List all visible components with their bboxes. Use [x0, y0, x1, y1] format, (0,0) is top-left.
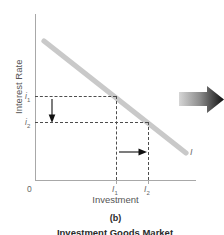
investment-demand-curve-label: I	[190, 148, 193, 157]
y-tick-label-i2: i2	[25, 118, 30, 129]
panel-caption: Investment Goods Market	[15, 228, 215, 235]
panel-letter: (b)	[35, 214, 196, 223]
y-tick-label-i1-sub: 1	[27, 97, 30, 103]
dashed-line-i1	[35, 96, 116, 97]
x-axis-title: Investment	[35, 195, 196, 205]
y-tick-label-i2-sub: 2	[27, 123, 30, 129]
tick-I2	[148, 180, 149, 184]
investment-demand-curve	[44, 41, 186, 153]
investment-rise-arrow	[119, 149, 147, 156]
y-axis-title: Interest Rate	[14, 52, 24, 122]
origin-label: 0	[27, 185, 32, 194]
interest-rate-fall-arrow	[49, 99, 56, 123]
investment-goods-market-figure: i1 i2 I1 I2 0 I Interest Rate Investment…	[0, 0, 224, 235]
dashed-line-I2	[148, 122, 149, 180]
shift-arrow-icon	[179, 86, 224, 113]
dashed-line-I1	[116, 96, 117, 180]
dashed-line-i2	[35, 122, 148, 123]
y-tick-label-i1: i1	[25, 92, 30, 103]
tick-I1	[116, 180, 117, 184]
